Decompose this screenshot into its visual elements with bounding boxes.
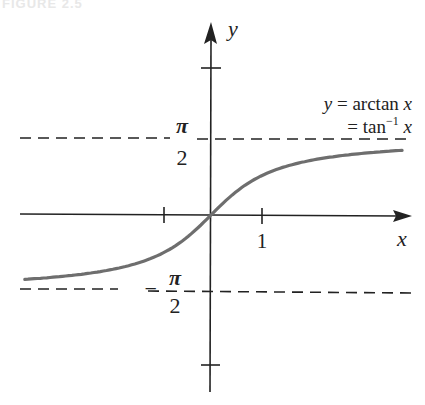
x-tick-label-1: 1 <box>257 229 268 253</box>
asymptote-upper <box>20 138 412 139</box>
y-axis: y <box>201 16 238 392</box>
function-annotation: y = arctan x = tan−1 x <box>322 93 413 137</box>
svg-text:2: 2 <box>170 293 181 318</box>
arctan-chart: 1 x y π 2 − π 2 y = arctan x = tan−1 x <box>0 0 425 405</box>
annotation-line-1: y = arctan x <box>322 93 413 114</box>
annotation-line-2: = tan−1 x <box>347 114 412 137</box>
svg-text:2: 2 <box>177 145 188 170</box>
asymptote-lower <box>20 289 412 293</box>
svg-text:π: π <box>169 265 182 290</box>
x-axis-label: x <box>396 226 407 251</box>
x-axis: 1 x <box>20 207 412 253</box>
label-pi-over-2: π 2 <box>176 113 189 170</box>
svg-text:π: π <box>176 113 189 138</box>
y-axis-label: y <box>226 16 238 41</box>
svg-text:−: − <box>145 276 157 301</box>
